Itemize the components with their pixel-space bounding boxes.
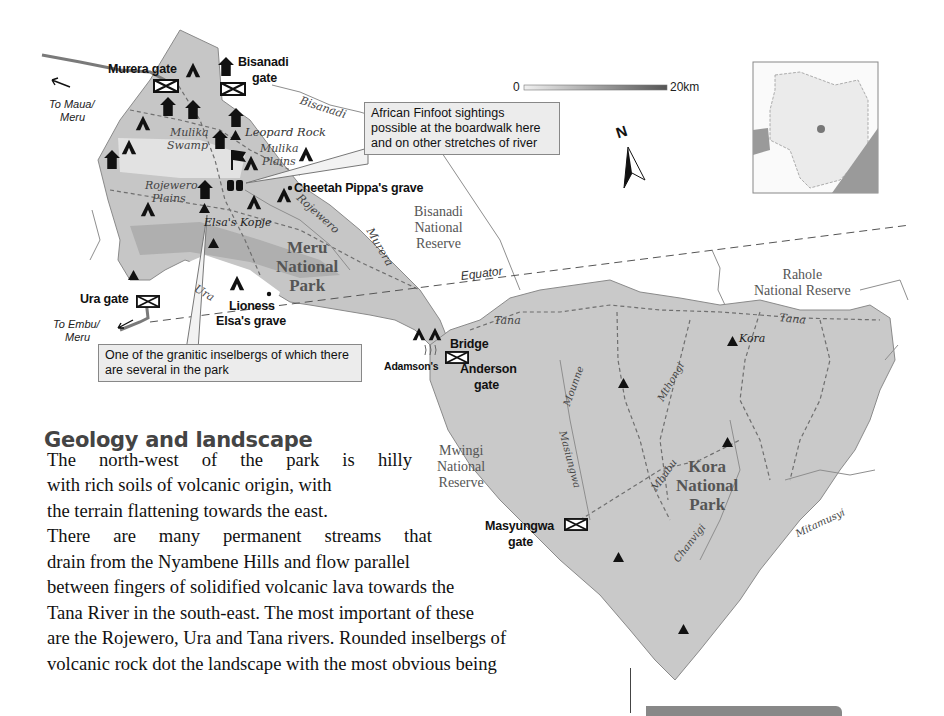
body-line-3: the terrain flattening towards the east. (47, 502, 328, 521)
bisanadi-reserve-label: Bisanadi National Reserve (414, 204, 463, 252)
masyungwa-gate-label: Masyungwa (485, 520, 554, 533)
kora-park-label: Kora National Park (676, 457, 738, 514)
body-line-7: Tana River in the south-east. The most i… (47, 604, 474, 623)
murera-gate-label: Murera gate (108, 63, 177, 76)
leopard-rock-label: Leopard Rock (245, 127, 326, 139)
arrow-icon (52, 78, 70, 87)
body-line-2: with rich soils of volcanic origin, with (47, 476, 332, 495)
kenya-inset-map (753, 62, 878, 193)
mulika-plains-label: Mulika (260, 143, 299, 154)
scale-bar (524, 85, 667, 90)
anderson-gate-label-2: gate (474, 379, 499, 392)
to-maua-label-2: Meru (60, 112, 85, 123)
finfoot-callout: African Finfoot sightings possible at th… (364, 102, 560, 155)
bisanadi-gate-label-2: gate (252, 72, 277, 85)
mulika-plains-label-2: Plains (262, 156, 296, 167)
meru-park-label: Meru National Park (276, 238, 338, 295)
mulika-swamp-label: Mulika (170, 127, 209, 138)
body-line-4: There are many permanent streams that (47, 527, 432, 546)
lodge-icon (218, 57, 234, 76)
body-line-8: are the Rojewero, Ura and Tana rivers. R… (47, 629, 506, 648)
tana-river-label-west: Tana (494, 315, 521, 326)
to-embu-label: To Embu/ (53, 319, 100, 330)
gate-icon (137, 296, 159, 307)
ura-gate-label: Ura gate (80, 293, 128, 306)
campsite-icon (299, 147, 313, 161)
elsa-grave-label: Elsa's grave (216, 315, 286, 328)
inselberg-callout: One of the granitic inselbergs of which … (98, 344, 362, 382)
body-line-1: The north-west of the park is hilly (47, 451, 412, 470)
bisanadi-gate-label: Bisanadi (238, 56, 289, 69)
rojewero-plains-label-2: Plains (152, 193, 186, 204)
kora-peak-label: Kora (739, 333, 765, 344)
masyungwa-gate-label-2: gate (508, 536, 533, 549)
adamsons-label: Adamson's (384, 361, 438, 372)
scale-end-label: 20km (670, 81, 699, 93)
mwingi-reserve-label: Mwingi National Reserve (437, 443, 485, 491)
body-line-6: between fingers of solidified volcanic l… (47, 578, 454, 597)
body-line-9: volcanic rock dot the landscape with the… (47, 655, 497, 674)
rojewero-plains-label: Rojewero (145, 180, 198, 191)
tana-river-label-east: Tana (779, 312, 807, 326)
rahole-reserve-label: Rahole National Reserve (754, 267, 851, 299)
gate-icon (565, 519, 587, 530)
bridge-label: Bridge (450, 338, 488, 351)
north-arrow-icon (624, 147, 645, 188)
sidebar-box-top (646, 706, 842, 716)
anderson-gate-label: Anderson (460, 363, 517, 376)
body-line-5: drain from the Nyambene Hills and flow p… (47, 553, 410, 572)
cheetah-grave-marker (288, 186, 292, 190)
gate-icon (221, 83, 245, 95)
scale-start-label: 0 (513, 81, 520, 93)
to-maua-label: To Maua/ (49, 99, 94, 110)
column-divider (630, 668, 631, 713)
mulika-swamp-label-2: Swamp (167, 140, 208, 151)
elsas-kopje-label: Elsa's Kopje (204, 217, 271, 228)
cheetah-grave-label: Cheetah Pippa's grave (294, 182, 423, 195)
elsa-grave-marker (267, 292, 271, 296)
to-embu-label-2: Meru (65, 332, 90, 343)
gate-icon (154, 80, 178, 92)
lioness-label: Lioness (229, 300, 275, 313)
